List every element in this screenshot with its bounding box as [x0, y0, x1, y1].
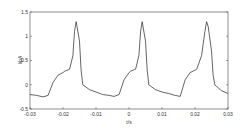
x-tick-label: -0.03 [24, 111, 36, 117]
x-tick-label: 0.02 [190, 111, 200, 117]
x-tick-label: 0.03 [223, 111, 233, 117]
y-tick-label: 1 [25, 33, 28, 39]
y-axis-label: I/pA [17, 55, 23, 65]
x-tick-label: 0 [128, 111, 131, 117]
line-chart: -0.03-0.02-0.0100.010.020.03 -0.500.511.… [0, 0, 245, 130]
axes-box [30, 12, 228, 109]
x-tick-label: 0.01 [157, 111, 167, 117]
y-tick-label: 1.5 [21, 9, 28, 15]
y-tick-label: -0.5 [19, 106, 28, 112]
y-tick-label: 0 [25, 82, 28, 88]
x-axis-label: t/s [126, 119, 132, 125]
x-tick-label: -0.02 [57, 111, 69, 117]
x-tick-label: -0.01 [90, 111, 102, 117]
